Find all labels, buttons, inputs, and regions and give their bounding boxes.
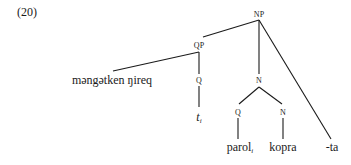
edge-n-n <box>259 87 282 104</box>
node-qp: QP <box>194 41 205 50</box>
node-n-q: Q <box>235 108 241 117</box>
trace-index: i <box>200 117 202 125</box>
node-trace: ti <box>196 110 201 125</box>
edge-qp-spec <box>113 52 199 71</box>
edge-np-qp <box>203 20 259 37</box>
parol-index: i <box>251 147 253 155</box>
edge-n-q <box>239 87 259 104</box>
tree-branches <box>0 0 351 165</box>
node-n-bar: N <box>256 76 262 85</box>
node-ta: -ta <box>326 140 339 155</box>
node-kopra: kopra <box>269 140 296 155</box>
node-q-head: Q <box>196 76 202 85</box>
node-np: NP <box>254 10 265 19</box>
node-n-n: N <box>280 108 286 117</box>
edge-np-ta <box>259 20 331 139</box>
parol-word: parol <box>227 140 252 154</box>
node-parol: paroli <box>227 140 254 155</box>
node-qp-spec: məngətken ŋireq <box>72 73 152 88</box>
